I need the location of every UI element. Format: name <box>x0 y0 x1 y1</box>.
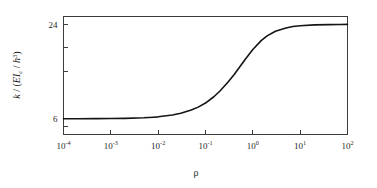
x-tick-label-2: 10-2 <box>151 139 165 151</box>
y-title-inner-slash: / <box>11 63 22 71</box>
y-axis-ticks <box>64 24 69 126</box>
y-title-slash: / ( <box>11 82 23 94</box>
x-tick-label-5: 101 <box>294 139 306 151</box>
x-tick-label-0: 10-4 <box>56 139 70 151</box>
x-tick-label-6: 102 <box>341 139 353 151</box>
x-tick-label-4: 100 <box>247 139 259 151</box>
x-axis-ticks <box>64 130 348 135</box>
y-tick-label-6: 6 <box>53 114 58 124</box>
y-title-modulus: EI <box>11 73 22 84</box>
y-title-close: ) <box>11 51 23 54</box>
y-tick-label-24: 24 <box>49 20 59 30</box>
stiffness-vs-rho-chart: 10-410-310-210-1100101102 246 ρ k / (EIc… <box>0 0 377 188</box>
y-axis-tick-labels: 246 <box>49 20 59 124</box>
x-axis-title: ρ <box>194 167 199 178</box>
data-series-group <box>64 24 348 118</box>
svg-text:k / (EIc / h3): k / (EIc / h3) <box>11 51 24 98</box>
x-tick-label-1: 10-3 <box>104 139 118 151</box>
stiffness-curve <box>64 24 348 118</box>
y-axis-title: k / (EIc / h3) <box>11 51 24 98</box>
x-axis-tick-labels: 10-410-310-210-1100101102 <box>56 139 353 151</box>
x-tick-label-3: 10-1 <box>198 139 212 151</box>
chart-axes <box>64 16 349 135</box>
chart-figure: 10-410-310-210-1100101102 246 ρ k / (EIc… <box>0 0 377 188</box>
